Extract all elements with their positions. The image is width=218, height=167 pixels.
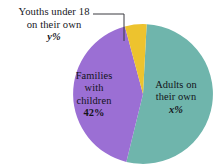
families-value: 42%	[63, 107, 125, 119]
slice-label-adults: Adults on their own x%	[144, 79, 208, 116]
families-line-3: children	[63, 95, 125, 107]
callout-line-1: Youths under 18	[2, 6, 106, 19]
families-line-1: Families	[63, 70, 125, 82]
callout-value: y%	[2, 31, 106, 43]
pie-chart-figure: Youths under 18 on their own y% Families…	[0, 0, 218, 167]
slice-label-families: Families with children 42%	[63, 70, 125, 120]
callout-line-2: on their own	[2, 19, 106, 32]
callout-label-youths: Youths under 18 on their own y%	[2, 6, 106, 43]
families-line-2: with	[63, 82, 125, 94]
adults-line-2: their own	[144, 91, 208, 103]
adults-value: x%	[144, 104, 208, 116]
adults-line-1: Adults on	[144, 79, 208, 91]
